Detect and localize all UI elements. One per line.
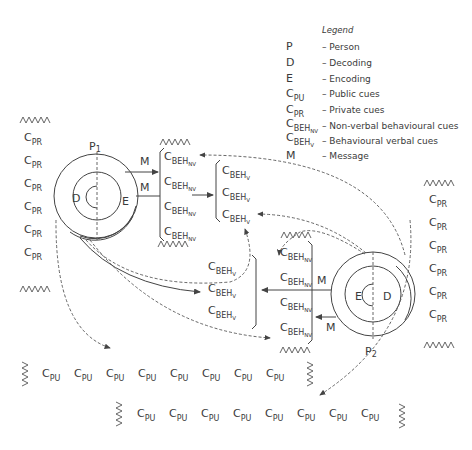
private-cue: CPR (429, 239, 448, 255)
legend-item-person: P – Person (286, 40, 360, 53)
nonverbal-behavioural-cue: CBEHNV (164, 200, 196, 217)
public-cues-row-1: CPUCPUCPUCPUCPUCPUCPUCPU (22, 362, 313, 386)
p2-private-cues: CPRCPRCPRCPRCPRCPR (424, 180, 454, 348)
svg-text:D: D (286, 56, 294, 69)
svg-text:P: P (286, 40, 293, 53)
person-2: P2 E D (331, 252, 415, 359)
verbal-behavioural-cue: CBEHV (222, 164, 250, 181)
p1-encoding-label: E (122, 195, 129, 208)
zigzag-separator-icon (116, 402, 122, 426)
dashed-flow-p2-to-p1-nv (200, 155, 405, 255)
verbal-behavioural-cue: CBEHV (208, 260, 236, 277)
svg-text:– Encoding: – Encoding (322, 74, 371, 84)
private-cue: CPR (429, 285, 448, 301)
private-cue: CPR (429, 193, 448, 209)
private-cue: CPR (429, 216, 448, 232)
message-label: M (140, 181, 150, 194)
public-cue: CPU (74, 367, 93, 383)
legend-item-verbal-cues: CBEHV – Behavioural verbal cues (286, 131, 438, 148)
legend: Legend P – Person D – Decoding E – Encod… (286, 25, 459, 162)
public-cue: CPU (233, 407, 252, 423)
verbal-behavioural-cue: CBEHV (208, 304, 236, 321)
private-cue: CPR (24, 223, 43, 239)
public-cue: CPU (234, 367, 253, 383)
public-cue: CPU (361, 407, 380, 423)
p1-label: P1 (89, 140, 101, 154)
public-cue: CPU (138, 367, 157, 383)
nonverbal-behavioural-cue: CBEHNV (280, 246, 312, 263)
zigzag-separator-icon (399, 404, 405, 428)
legend-item-public-cues: CPU – Public cues (286, 87, 380, 103)
private-cue: CPR (24, 131, 43, 147)
svg-text:– Behavioural verbal cues: – Behavioural verbal cues (322, 136, 438, 146)
public-cue: CPU (42, 367, 61, 383)
zigzag-separator-icon (280, 347, 310, 353)
message-label: M (317, 274, 327, 287)
zigzag-separator-icon (307, 362, 313, 386)
p2-nonverbal-cues: CBEHNVCBEHNVCBEHNVCBEHNV (280, 232, 312, 353)
public-cue: CPU (137, 407, 156, 423)
p1-verbal-cues: CBEHVCBEHVCBEHV (216, 160, 250, 225)
legend-item-message: M – Message (286, 149, 369, 162)
legend-item-decoding: D – Decoding (286, 56, 372, 69)
person-1: P1 D E (54, 140, 138, 240)
private-cue: CPR (24, 200, 43, 216)
public-cue: CPU (265, 407, 284, 423)
public-cue: CPU (170, 367, 189, 383)
legend-item-nonverbal-cues: CBEHNV – Non-verbal behavioural cues (286, 117, 459, 134)
zigzag-separator-icon (424, 180, 454, 186)
public-cue: CPU (202, 367, 221, 383)
p1-decoding-label: D (72, 192, 80, 205)
legend-item-encoding: E – Encoding (286, 72, 371, 85)
public-cues-row-2: CPUCPUCPUCPUCPUCPUCPUCPU (116, 402, 405, 428)
public-cue: CPU (169, 407, 188, 423)
p2-decoding-label: D (383, 290, 391, 303)
svg-text:– Person: – Person (322, 42, 360, 52)
public-cue: CPU (266, 367, 285, 383)
zigzag-separator-icon (22, 362, 28, 386)
private-cue: CPR (24, 154, 43, 170)
private-cue: CPR (429, 308, 448, 324)
zigzag-separator-icon (20, 286, 50, 292)
nonverbal-behavioural-cue: CBEHNV (280, 271, 312, 288)
verbal-behavioural-cue: CBEHV (222, 208, 250, 225)
nonverbal-behavioural-cue: CBEHNV (280, 296, 312, 313)
p2-encoding-label: E (355, 290, 362, 303)
public-cue: CPU (329, 407, 348, 423)
verbal-behavioural-cue: CBEHV (208, 282, 236, 299)
message-label: M (326, 321, 336, 334)
svg-text:CPU: CPU (286, 87, 305, 103)
nonverbal-behavioural-cue: CBEHNV (164, 150, 196, 167)
public-cue: CPU (201, 407, 220, 423)
dashed-flow-p1-to-p2-nv (90, 240, 270, 338)
svg-text:– Message: – Message (322, 151, 369, 161)
svg-text:– Private cues: – Private cues (322, 105, 385, 115)
zigzag-separator-icon (424, 342, 454, 348)
message-label: M (140, 155, 150, 168)
zigzag-separator-icon (158, 241, 188, 247)
private-cue: CPR (429, 262, 448, 278)
nonverbal-behavioural-cue: CBEHNV (280, 321, 312, 338)
verbal-behavioural-cue: CBEHV (222, 186, 250, 203)
nonverbal-behavioural-cue: CBEHNV (164, 175, 196, 192)
nonverbal-behavioural-cue: CBEHNV (164, 225, 196, 242)
private-cue: CPR (24, 177, 43, 193)
p1-private-cues: CPRCPRCPRCPRCPRCPR (20, 117, 50, 292)
communication-cues-diagram: Legend P – Person D – Decoding E – Encod… (0, 0, 472, 450)
zigzag-separator-icon (160, 139, 190, 145)
svg-text:E: E (286, 72, 293, 85)
public-cue: CPU (297, 407, 316, 423)
svg-text:– Decoding: – Decoding (322, 58, 372, 68)
private-cue: CPR (24, 246, 43, 262)
legend-title: Legend (322, 25, 354, 35)
p1-nonverbal-cues: CBEHNVCBEHNVCBEHNVCBEHNV (158, 139, 196, 247)
legend-item-private-cues: CPR – Private cues (286, 103, 385, 119)
svg-text:– Non-verbal behavioural cues: – Non-verbal behavioural cues (322, 121, 459, 131)
public-cue: CPU (106, 367, 125, 383)
svg-text:M: M (286, 149, 296, 162)
zigzag-separator-icon (20, 117, 50, 123)
svg-text:– Public cues: – Public cues (322, 89, 380, 99)
p2-verbal-cues-received: CBEHVCBEHVCBEHV (208, 255, 256, 329)
p2-label: P2 (365, 345, 377, 359)
